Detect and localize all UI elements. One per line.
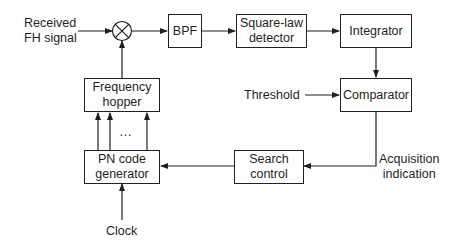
integrator-block: Integrator xyxy=(340,14,412,48)
clock-label: Clock xyxy=(106,224,137,239)
pn-code-generator-block: PN code generator xyxy=(84,150,160,184)
bpf-block: BPF xyxy=(168,14,202,48)
ellipsis-label: … xyxy=(119,124,133,139)
threshold-label: Threshold xyxy=(244,88,300,103)
search-control-block: Search control xyxy=(234,150,304,184)
received-signal-label: Received FH signal xyxy=(24,16,77,46)
acquisition-indication-label: Acquisition indication xyxy=(379,152,439,182)
square-law-detector-block: Square-law detector xyxy=(236,14,307,48)
comparator-block: Comparator xyxy=(340,78,412,112)
frequency-hopper-block: Frequency hopper xyxy=(84,78,160,112)
